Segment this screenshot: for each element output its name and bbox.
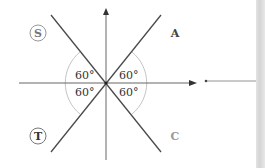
quadrant-label-c: C: [171, 130, 180, 143]
pointer-dot: [205, 80, 208, 83]
diagram-canvas: 60° 60° 60° 60° S A T C: [0, 0, 265, 168]
quadrant-label-a: A: [170, 27, 180, 40]
angle-label-upper-left: 60°: [75, 69, 95, 82]
angle-label-upper-right: 60°: [119, 69, 139, 82]
y-axis-arrow-icon: [103, 8, 109, 15]
x-axis-arrow-icon: [189, 80, 197, 86]
angle-label-lower-right: 60°: [119, 86, 139, 99]
quadrant-label-t: T: [34, 130, 43, 143]
side-panel-edge: [256, 0, 265, 168]
origin-point: [104, 81, 107, 84]
angle-label-lower-left: 60°: [75, 86, 95, 99]
quadrant-label-s: S: [34, 27, 42, 40]
quadrant-diagram: 60° 60° 60° 60° S A T C: [0, 0, 265, 168]
